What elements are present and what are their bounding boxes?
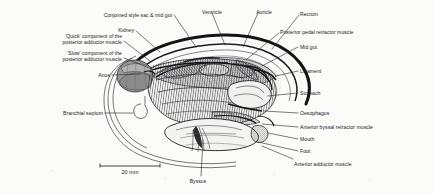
label-slow-component-posterior-adductor: 'Slow' component of the posterior adduct…: [62, 50, 122, 62]
label-anterior-adductor-muscle: Anterior adductor muscle: [294, 161, 352, 167]
label-ventricle: Ventricle: [202, 9, 222, 15]
scale-bar-label: 20 mm: [116, 169, 144, 175]
anatomical-figure: 20 mm Conjoined style sac & mid gutVentr…: [0, 0, 435, 194]
scale-bar: [0, 0, 435, 194]
label-mouth: Mouth: [300, 136, 314, 142]
label-byssus: Byssus: [168, 178, 228, 184]
label-ligament: Ligament: [300, 68, 321, 74]
label-posterior-pedal-retractor-muscle: Posterior pedal retractor muscle: [280, 29, 353, 35]
label-rectum: Rectum: [300, 11, 318, 17]
label-branchial-septum: Branchial septum: [63, 110, 103, 116]
label-mid-gut: Mid gut: [300, 44, 317, 50]
label-anus: Anus: [98, 72, 110, 78]
label-stomach: Stomach: [300, 90, 320, 96]
label-quick-component-posterior-adductor: 'Quick' component of the posterior adduc…: [62, 33, 122, 45]
label-foot: Foot: [300, 148, 310, 154]
label-conjoined-style-sac-mid-gut: Conjoined style sac & mid gut: [104, 12, 172, 18]
label-anterior-byssal-retractor-muscle: Anterior byssal retractor muscle: [300, 124, 373, 130]
label-oesophagus: Oesophagus: [300, 110, 329, 116]
label-auricle: Auricle: [256, 9, 272, 15]
